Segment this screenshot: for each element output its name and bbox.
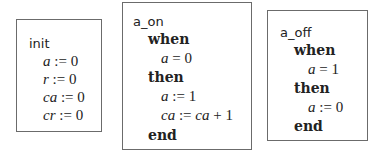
then-keyword: then xyxy=(294,80,330,96)
action-ca: ca := 0 xyxy=(43,89,85,106)
action-r: r := 0 xyxy=(43,71,76,88)
action-a: a := 1 xyxy=(161,88,196,105)
then-keyword: then xyxy=(148,69,184,85)
when-keyword: when xyxy=(294,42,335,58)
guard: a = 0 xyxy=(161,50,192,67)
event-name-init: init xyxy=(29,36,50,51)
event-a-off-box: a_off when a = 1 then a := 0 end xyxy=(267,10,368,141)
action-ca: ca := ca + 1 xyxy=(161,107,233,124)
when-keyword: when xyxy=(148,31,189,47)
end-keyword: end xyxy=(294,118,323,134)
event-name-a-off: a_off xyxy=(280,25,311,40)
action-a: a := 0 xyxy=(43,53,78,70)
event-a-on-box: a_on when a = 0 then a := 1 ca := ca + 1… xyxy=(122,2,252,150)
guard: a = 1 xyxy=(308,61,339,78)
end-keyword: end xyxy=(148,127,177,143)
event-name-a-on: a_on xyxy=(133,14,164,29)
action-a: a := 0 xyxy=(308,99,343,116)
action-cr: cr := 0 xyxy=(43,107,83,124)
event-init-box: init a := 0 r := 0 ca := 0 cr := 0 xyxy=(16,19,102,132)
